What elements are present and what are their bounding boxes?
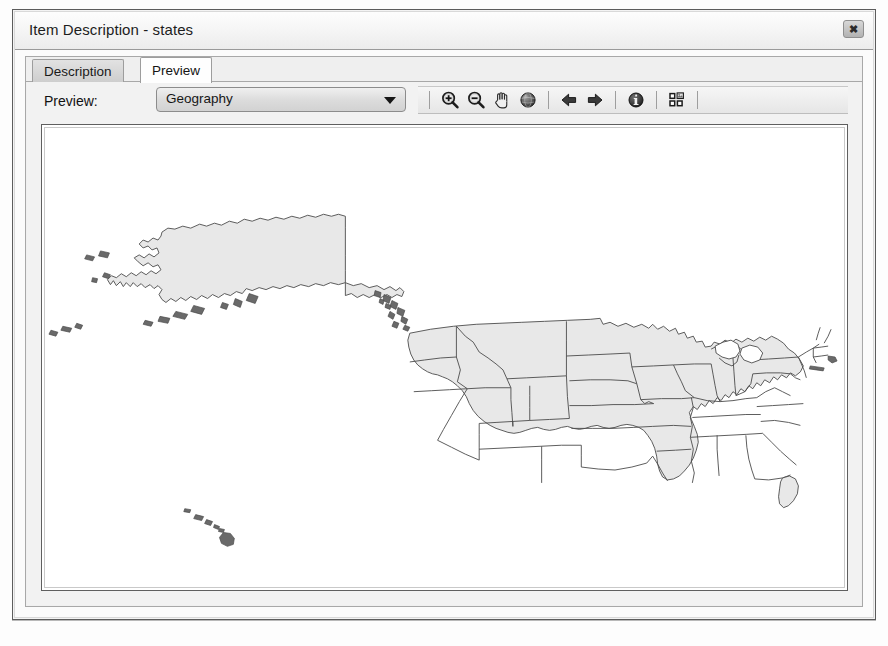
preview-label: Preview:: [44, 93, 98, 109]
title-bar: Item Description - states ✖: [15, 12, 873, 50]
map-feature-alaska: [107, 214, 345, 302]
desktop-backdrop: Item Description - states ✖ Description …: [0, 0, 888, 646]
create-thumbnail-button[interactable]: [664, 88, 690, 112]
back-extent-button[interactable]: [556, 88, 582, 112]
map-feature-kodiak-island: [220, 294, 258, 310]
toolbar-separator: [656, 91, 657, 109]
zoom-out-icon: [466, 90, 486, 110]
forward-extent-button[interactable]: [582, 88, 608, 112]
full-extent-globe-icon: [518, 90, 538, 110]
window-title: Item Description - states: [29, 21, 193, 38]
tab-description-label: Description: [44, 64, 112, 79]
tab-body-preview: Preview: Geography: [27, 82, 861, 605]
pan-button[interactable]: [489, 88, 515, 112]
map-preview-pane[interactable]: [41, 124, 848, 591]
forward-arrow-icon: [585, 90, 605, 110]
tab-preview-label: Preview: [152, 63, 200, 78]
tab-preview[interactable]: Preview: [140, 57, 212, 83]
zoom-out-button[interactable]: [463, 88, 489, 112]
toolbar-separator: [429, 91, 430, 109]
map-feature-florida: [779, 476, 799, 508]
toolbar-separator: [548, 91, 549, 109]
close-icon: ✖: [844, 21, 863, 37]
map-feature-long-island: [809, 366, 824, 371]
us-states-map: [45, 128, 844, 587]
window-inner-frame: Item Description - states ✖ Description …: [14, 11, 874, 618]
create-thumbnail-icon: [667, 90, 687, 110]
zoom-in-button[interactable]: [437, 88, 463, 112]
map-feature-hawaii: [184, 509, 235, 547]
close-button[interactable]: ✖: [843, 20, 864, 38]
pan-hand-icon: [492, 90, 512, 110]
preview-type-value: Geography: [166, 91, 233, 106]
toolbar-separator: [615, 91, 616, 109]
map-canvas[interactable]: [44, 127, 845, 588]
identify-button[interactable]: [623, 88, 649, 112]
back-arrow-icon: [559, 90, 579, 110]
preview-control-row: Preview: Geography: [27, 86, 861, 119]
item-description-window: Item Description - states ✖ Description …: [12, 9, 876, 620]
full-extent-button[interactable]: [515, 88, 541, 112]
zoom-in-icon: [440, 90, 460, 110]
tab-description[interactable]: Description: [32, 59, 124, 83]
map-toolbar: [418, 86, 848, 114]
chevron-down-icon: [384, 97, 396, 104]
preview-type-dropdown[interactable]: Geography: [156, 87, 406, 112]
tab-strip: Description Preview: [26, 57, 862, 82]
tab-panel: Description Preview Preview: Geography: [25, 56, 863, 607]
toolbar-separator: [697, 91, 698, 109]
identify-info-icon: [626, 90, 646, 110]
map-feature-cape-cod: [828, 356, 837, 363]
